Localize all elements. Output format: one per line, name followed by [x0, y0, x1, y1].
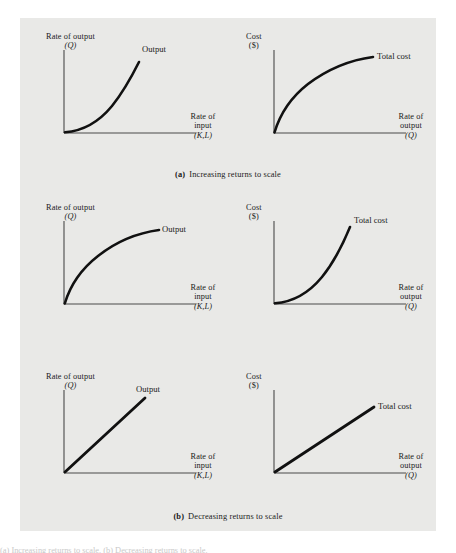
y-axis-label: Cost ($): [246, 372, 262, 391]
curve-output-concave: [65, 230, 159, 304]
chart-b-production: Rate of output (Q) Rate of input (K,L) O…: [20, 189, 228, 360]
y-axis-label-line1: Cost: [246, 203, 262, 212]
y-axis-label-line2: (Q): [46, 212, 95, 221]
y-axis-label: Cost ($): [246, 203, 262, 222]
y-axis-label-line2: (Q): [46, 381, 95, 390]
figure-panel: Rate of output (Q) Rate of input (K,L) O…: [20, 18, 436, 531]
y-axis-label: Rate of output (Q): [46, 32, 95, 51]
x-axis-label-line2: output: [389, 121, 433, 130]
x-axis-label-line1: Rate of: [399, 112, 424, 121]
y-axis-label-line2: ($): [246, 381, 262, 390]
x-axis-label-line1: Rate of: [191, 283, 216, 292]
cut-off-footer-text: (a) Increasing returns to scale. (b) Dec…: [0, 546, 456, 553]
x-axis-label-line2: output: [389, 292, 433, 301]
y-axis-label-line1: Cost: [246, 372, 262, 381]
y-axis-label: Rate of output (Q): [46, 372, 95, 391]
figure-row-b: Rate of output (Q) Rate of input (K,L) O…: [20, 189, 436, 360]
x-axis-label: Rate of output (Q): [389, 112, 433, 140]
x-axis-label-line1: Rate of: [399, 283, 424, 292]
y-axis-label-line2: ($): [246, 212, 262, 221]
curve-total-cost-concave: [275, 57, 374, 133]
line-output-linear: [65, 398, 145, 472]
caption-a: (a)Increasing returns to scale: [20, 170, 436, 179]
cut-off-footer-caption: (a) Increasing returns to scale. (b) Dec…: [0, 546, 456, 553]
figure-row-a: Rate of output (Q) Rate of input (K,L) O…: [20, 18, 436, 189]
y-axis-label-line2: ($): [246, 41, 262, 50]
chart-a-cost: Cost ($) Rate of output (Q) Total cost: [228, 18, 436, 189]
x-axis-label: Rate of input (K,L): [181, 283, 225, 311]
curve-label-output: Output: [142, 44, 166, 54]
caption-a-tag: (a): [175, 170, 185, 179]
chart-a-production: Rate of output (Q) Rate of input (K,L) O…: [20, 18, 228, 189]
x-axis-label-line3: (K,L): [181, 131, 225, 140]
chart-c-production: Rate of output (Q) Rate of input (K,L) O…: [20, 360, 228, 531]
x-axis-label-line3: (Q): [389, 302, 433, 311]
x-axis-label: Rate of output (Q): [389, 452, 433, 480]
caption-a-text: Increasing returns to scale: [189, 170, 281, 179]
x-axis-label-line3: (K,L): [181, 471, 225, 480]
x-axis-label-line2: input: [181, 292, 225, 301]
x-axis-label-line1: Rate of: [399, 452, 424, 461]
curve-label-output: Output: [162, 224, 186, 234]
curve-output-increasing: [65, 62, 139, 132]
x-axis-label-line3: (K,L): [181, 302, 225, 311]
x-axis-label: Rate of output (Q): [389, 283, 433, 311]
x-axis-label-line2: output: [389, 461, 433, 470]
x-axis-label: Rate of input (K,L): [181, 112, 225, 140]
curve-label-total-cost: Total cost: [378, 401, 412, 411]
chart-c-cost: Cost ($) Rate of output (Q) Total cost: [228, 360, 436, 531]
x-axis-label: Rate of input (K,L): [181, 452, 225, 480]
x-axis-label-line3: (Q): [389, 471, 433, 480]
x-axis-label-line3: (Q): [389, 131, 433, 140]
y-axis-label-line1: Rate of output: [46, 372, 95, 381]
x-axis-label-line1: Rate of: [191, 452, 216, 461]
figure-returns-to-scale: Rate of output (Q) Rate of input (K,L) O…: [0, 0, 456, 553]
y-axis-label-line1: Rate of output: [46, 203, 95, 212]
curve-total-cost-convex: [275, 227, 350, 303]
chart-b-cost: Cost ($) Rate of output (Q) Total cost: [228, 189, 436, 360]
y-axis-label: Cost ($): [246, 32, 262, 51]
x-axis-label-line2: input: [181, 121, 225, 130]
y-axis-label-line2: (Q): [46, 41, 95, 50]
curve-label-total-cost: Total cost: [354, 215, 388, 225]
y-axis-label-line1: Cost: [246, 32, 262, 41]
line-total-cost-linear: [275, 407, 374, 472]
curve-label-output: Output: [136, 384, 160, 394]
figure-row-c: Rate of output (Q) Rate of input (K,L) O…: [20, 360, 436, 531]
x-axis-label-line1: Rate of: [191, 112, 216, 121]
curve-label-total-cost: Total cost: [377, 51, 411, 61]
y-axis-label-line1: Rate of output: [46, 32, 95, 41]
x-axis-label-line2: input: [181, 461, 225, 470]
y-axis-label: Rate of output (Q): [46, 203, 95, 222]
